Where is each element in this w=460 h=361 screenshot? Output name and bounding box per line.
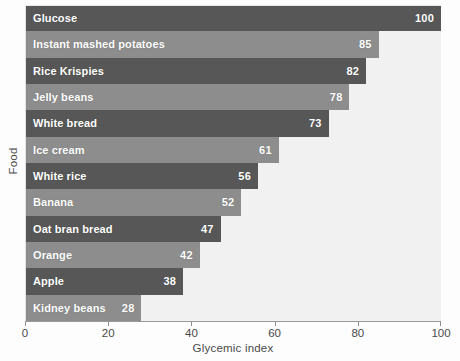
bar: White bread73 (25, 110, 329, 136)
y-axis-title: Food (0, 0, 24, 321)
bar-value-label: 82 (346, 65, 359, 77)
bar-row: White bread73 (25, 110, 441, 136)
bar-category-label: Apple (25, 275, 64, 287)
bar-value-label: 47 (201, 223, 214, 235)
bar-category-label: Jelly beans (25, 91, 93, 103)
x-axis-tick (25, 321, 26, 326)
bar-value-label: 56 (238, 170, 251, 182)
bar-row: Instant mashed potatoes85 (25, 31, 441, 57)
x-axis-tick-label: 20 (102, 327, 115, 339)
x-axis-tick-label: 40 (185, 327, 198, 339)
bar-category-label: Glucose (25, 12, 77, 24)
bar-value-label: 73 (309, 117, 322, 129)
bar: Ice cream61 (25, 137, 279, 163)
bar-row: Kidney beans28 (25, 295, 441, 321)
bar-value-label: 61 (259, 144, 272, 156)
x-axis-line (25, 321, 441, 322)
bar-value-label: 52 (222, 196, 235, 208)
bar: Apple38 (25, 268, 183, 294)
bar-row: Jelly beans78 (25, 84, 441, 110)
bar-row: Orange42 (25, 242, 441, 268)
bar: Glucose100 (25, 5, 441, 31)
bar-category-label: White bread (25, 117, 97, 129)
x-axis-tick (275, 321, 276, 326)
bar: Jelly beans78 (25, 84, 349, 110)
x-axis-tick-label: 60 (268, 327, 281, 339)
glycemic-index-bar-chart: Food Glucose100Instant mashed potatoes85… (0, 0, 460, 361)
bar-row: Banana52 (25, 189, 441, 215)
bar-value-label: 38 (163, 275, 176, 287)
bar: White rice56 (25, 163, 258, 189)
x-axis-tick-label: 0 (22, 327, 28, 339)
x-axis-tick (440, 321, 441, 326)
bar: Instant mashed potatoes85 (25, 31, 379, 57)
bar-value-label: 42 (180, 249, 193, 261)
bar-category-label: White rice (25, 170, 87, 182)
x-axis-tick-label: 80 (351, 327, 364, 339)
bar-row: Glucose100 (25, 5, 441, 31)
x-axis-tick-label: 100 (431, 327, 450, 339)
bar-row: White rice56 (25, 163, 441, 189)
bar-category-label: Orange (25, 249, 72, 261)
bar-row: Oat bran bread47 (25, 216, 441, 242)
bar-category-label: Oat bran bread (25, 223, 113, 235)
bar-value-label: 100 (415, 12, 434, 24)
bar-row: Apple38 (25, 268, 441, 294)
x-axis-title: Glycemic index (25, 342, 441, 354)
y-axis-title-label: Food (6, 147, 18, 174)
bar-value-label: 85 (359, 38, 372, 50)
bar: Oat bran bread47 (25, 216, 221, 242)
bar: Kidney beans28 (25, 295, 141, 321)
bar-row: Rice Krispies82 (25, 58, 441, 84)
x-axis-tick (191, 321, 192, 326)
bar: Orange42 (25, 242, 200, 268)
bar-category-label: Rice Krispies (25, 65, 104, 77)
bar-category-label: Instant mashed potatoes (25, 38, 165, 50)
bar-category-label: Banana (25, 196, 73, 208)
plot-area: Glucose100Instant mashed potatoes85Rice … (25, 5, 441, 321)
x-axis-tick (358, 321, 359, 326)
bar-category-label: Kidney beans (25, 302, 106, 314)
bar-category-label: Ice cream (25, 144, 85, 156)
bar-row: Ice cream61 (25, 137, 441, 163)
bar: Rice Krispies82 (25, 58, 366, 84)
x-axis-tick (108, 321, 109, 326)
bar: Banana52 (25, 189, 241, 215)
bar-value-label: 78 (330, 91, 343, 103)
bar-value-label: 28 (122, 302, 135, 314)
